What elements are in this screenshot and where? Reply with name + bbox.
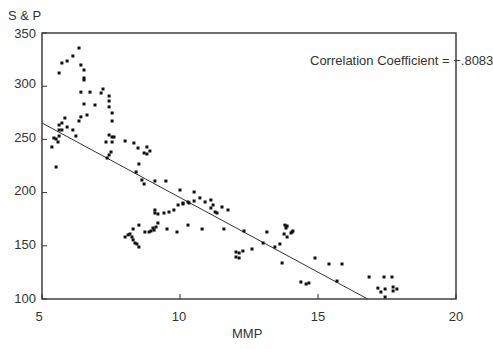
data-point xyxy=(153,229,156,232)
data-point xyxy=(57,141,60,144)
data-point xyxy=(63,117,66,120)
data-point xyxy=(66,126,69,129)
data-point xyxy=(235,256,238,259)
data-point xyxy=(307,282,310,285)
data-points xyxy=(50,47,398,299)
y-tick-label: 300 xyxy=(2,76,36,91)
data-point xyxy=(83,103,86,106)
data-point xyxy=(168,211,171,214)
data-point xyxy=(379,291,382,294)
data-point xyxy=(222,228,225,231)
data-point xyxy=(83,69,86,72)
data-point xyxy=(166,228,169,231)
data-point xyxy=(209,207,212,210)
data-point xyxy=(100,92,103,95)
data-point xyxy=(50,146,53,149)
y-tick-label: 350 xyxy=(2,26,36,41)
data-point xyxy=(198,196,201,199)
data-point xyxy=(384,288,387,291)
data-point xyxy=(78,47,81,50)
data-point xyxy=(108,95,111,98)
data-point xyxy=(153,180,156,183)
data-point xyxy=(153,212,156,215)
data-point xyxy=(135,243,138,246)
data-point xyxy=(74,135,77,138)
data-point xyxy=(108,100,111,103)
x-tick-label: 5 xyxy=(24,309,54,324)
data-point xyxy=(305,283,308,286)
data-point xyxy=(341,263,344,266)
data-point xyxy=(108,105,111,108)
data-point xyxy=(113,136,116,139)
data-point xyxy=(145,146,148,149)
data-point xyxy=(106,157,109,160)
data-point xyxy=(209,199,212,202)
data-point xyxy=(153,209,156,212)
data-point xyxy=(55,166,58,169)
data-point xyxy=(71,129,74,132)
data-point xyxy=(188,202,191,205)
data-point xyxy=(79,64,82,67)
data-point xyxy=(111,120,114,123)
data-point xyxy=(201,228,204,231)
x-tick-label: 15 xyxy=(303,309,333,324)
data-point xyxy=(58,135,61,138)
data-point xyxy=(108,134,111,137)
data-point xyxy=(251,248,254,251)
y-tick-label: 200 xyxy=(2,183,36,198)
data-point xyxy=(129,233,132,236)
data-point xyxy=(273,246,276,249)
data-point xyxy=(148,150,151,153)
data-point xyxy=(60,62,63,65)
data-point xyxy=(124,140,127,143)
data-point xyxy=(392,290,395,293)
data-point xyxy=(235,251,238,254)
data-point xyxy=(299,281,302,284)
regression-line xyxy=(42,123,368,299)
data-point xyxy=(131,236,134,239)
data-point xyxy=(110,151,113,154)
data-point xyxy=(108,154,111,157)
data-point xyxy=(384,296,387,299)
data-point xyxy=(111,141,114,144)
data-point xyxy=(132,142,135,145)
data-point xyxy=(58,124,61,127)
y-tick-label: 150 xyxy=(2,237,36,252)
data-point xyxy=(140,179,143,182)
data-point xyxy=(135,171,138,174)
data-point xyxy=(78,120,81,123)
data-point xyxy=(216,212,219,215)
data-point xyxy=(143,152,146,155)
data-point xyxy=(383,276,386,279)
data-point xyxy=(163,212,166,215)
data-point xyxy=(278,243,281,246)
data-point xyxy=(105,141,108,144)
data-point xyxy=(391,276,394,279)
data-point xyxy=(241,250,244,253)
data-point xyxy=(111,112,114,115)
data-point xyxy=(60,129,63,132)
data-point xyxy=(376,287,379,290)
y-tick-label: 100 xyxy=(2,291,36,306)
data-point xyxy=(66,60,69,63)
data-point xyxy=(58,72,61,75)
data-point xyxy=(182,202,185,205)
data-point xyxy=(193,200,196,203)
data-point xyxy=(102,88,105,91)
data-point xyxy=(156,222,159,225)
data-point xyxy=(243,230,246,233)
data-point xyxy=(155,226,158,229)
data-point xyxy=(132,228,135,231)
data-point xyxy=(392,286,395,289)
data-point xyxy=(314,257,317,260)
data-point xyxy=(89,91,92,94)
data-point xyxy=(176,231,179,234)
data-point xyxy=(86,114,89,117)
data-point xyxy=(124,236,127,239)
data-point xyxy=(187,224,190,227)
data-point xyxy=(285,227,288,230)
data-point xyxy=(212,204,215,207)
data-point xyxy=(145,153,148,156)
x-axis-label: MMP xyxy=(232,326,262,341)
data-point xyxy=(79,115,82,118)
